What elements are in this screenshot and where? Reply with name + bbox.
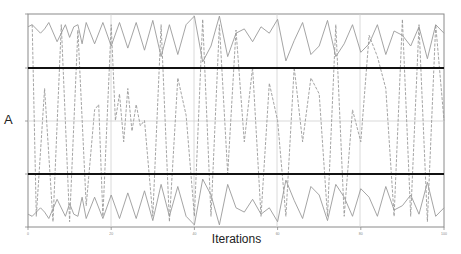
lower-band-trace bbox=[28, 179, 444, 225]
vertical-gridlines bbox=[111, 14, 360, 227]
plot-frame bbox=[28, 14, 444, 227]
data-traces bbox=[28, 16, 444, 225]
y-axis-label: A bbox=[4, 112, 13, 127]
x-axis-label: Iterations bbox=[212, 232, 261, 246]
line-chart: 020406080100 bbox=[0, 0, 461, 254]
middle-trace bbox=[32, 19, 444, 221]
x-axis-label-wrap: Iterations bbox=[0, 232, 461, 246]
upper-band-trace bbox=[28, 16, 444, 62]
